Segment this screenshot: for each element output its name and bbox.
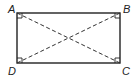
rectangle-diagram: A B C D — [0, 0, 136, 79]
vertex-label-d: D — [8, 65, 16, 77]
vertex-label-b: B — [123, 3, 130, 15]
vertex-label-c: C — [122, 65, 130, 77]
vertex-label-a: A — [7, 3, 15, 15]
